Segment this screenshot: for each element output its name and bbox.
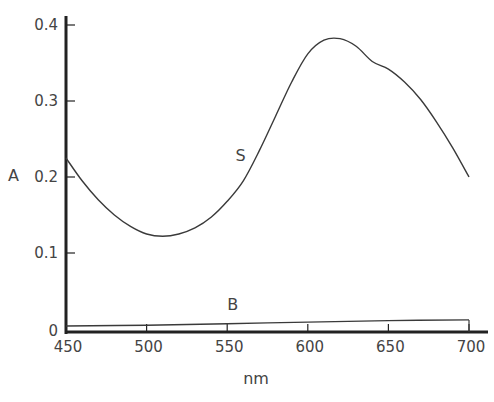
y-axis-label: A (8, 166, 19, 185)
x-tick-label: 650 (376, 338, 405, 356)
x-tick-label: 600 (295, 338, 324, 356)
absorbance-spectrum-chart: 00.10.20.30.4450500550600650700 A nm S B (0, 0, 494, 402)
x-tick-label: 500 (134, 338, 163, 356)
y-tick-label: 0.3 (34, 92, 58, 110)
x-axis-label: nm (243, 369, 269, 388)
y-tick-label: 0.2 (34, 168, 58, 186)
axes (65, 16, 488, 334)
ticks: 00.10.20.30.4450500550600650700 (34, 16, 485, 356)
series-label-s: S (235, 146, 245, 165)
series (66, 38, 469, 332)
x-tick-label: 550 (215, 338, 244, 356)
y-tick-label: 0.1 (34, 244, 58, 262)
y-tick-label: 0.4 (34, 16, 58, 34)
x-tick-label: 700 (457, 338, 486, 356)
series-label-b: B (227, 295, 238, 314)
x-tick-label: 450 (54, 338, 83, 356)
series-line-b (66, 320, 469, 326)
series-line-s (66, 38, 469, 236)
